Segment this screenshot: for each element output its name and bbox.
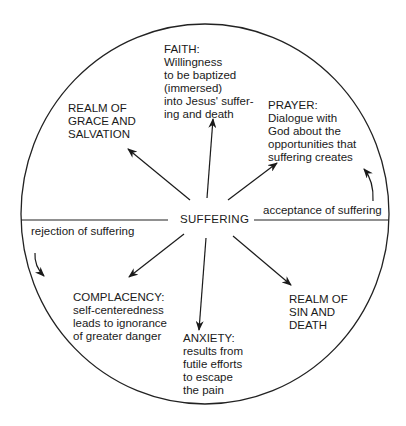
node-grace-line: SALVATION [68,128,136,141]
node-faith-line: ing and death [164,108,254,121]
center-label-suffering: SUFFERING [180,213,249,225]
node-anxiety-heading: ANXIETY: [183,332,243,345]
node-grace-heading: REALM OF [68,102,136,115]
node-faith-heading: FAITH: [164,43,254,56]
node-prayer-heading: PRAYER: [268,99,356,112]
node-anxiety: ANXIETY: results from futile efforts to … [183,332,243,397]
node-complacency-line: self-centeredness [73,304,167,317]
curved-arrow-rejection [35,253,44,276]
arrow-to-faith [207,119,213,198]
divider-label-rejection: rejection of suffering [31,225,134,238]
node-grace-line: GRACE AND [68,115,136,128]
arrow-to-sin [233,236,291,285]
node-anxiety-line: results from [183,345,243,358]
node-sin: REALM OF SIN AND DEATH [289,293,348,332]
node-faith-line: Willingness [164,56,254,69]
node-sin-line: SIN AND [289,306,348,319]
node-sin-heading: REALM OF [289,293,348,306]
node-prayer-line: Dialogue with [268,112,356,125]
node-prayer-line: opportunities that [268,138,356,151]
node-prayer-line: suffering creates [268,151,356,164]
node-faith-line: to be baptized [164,69,254,82]
node-prayer: PRAYER: Dialogue with God about the oppo… [268,99,356,164]
curved-arrow-acceptance [364,169,373,201]
node-prayer-line: God about the [268,125,356,138]
node-faith-line: into Jesus' suffer- [164,95,254,108]
node-sin-line: DEATH [289,319,348,332]
node-complacency-line: of greater danger [73,330,167,343]
node-anxiety-line: the pain [183,384,243,397]
node-faith-line: (immersed) [164,82,254,95]
arrow-to-anxiety [199,238,206,330]
node-complacency-heading: COMPLACENCY: [73,291,167,304]
arrow-to-grace [128,149,190,200]
node-anxiety-line: to escape [183,371,243,384]
arrow-to-prayer [228,163,277,200]
node-complacency-line: leads to ignorance [73,317,167,330]
node-faith: FAITH: Willingness to be baptized (immer… [164,43,254,121]
divider-label-acceptance: acceptance of suffering [263,204,382,217]
node-grace: REALM OF GRACE AND SALVATION [68,102,136,141]
arrow-to-complacency [129,234,184,277]
node-complacency: COMPLACENCY: self-centeredness leads to … [73,291,167,343]
node-anxiety-line: futile efforts [183,358,243,371]
